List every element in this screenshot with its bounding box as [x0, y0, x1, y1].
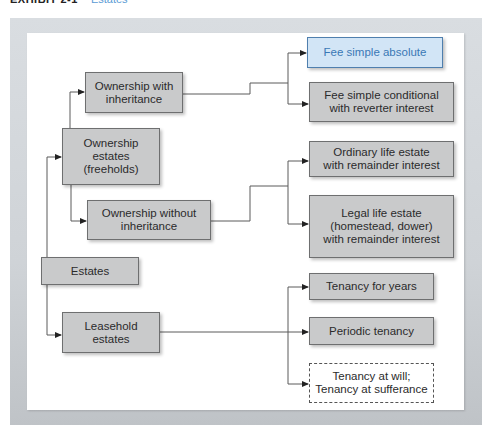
- node-ownership-estates: Ownership estates (freeholds): [62, 128, 160, 185]
- node-tenancy-for-years: Tenancy for years: [309, 273, 434, 300]
- node-label: Ownership estates (freeholds): [84, 137, 139, 176]
- node-label: Ordinary life estate with remainder inte…: [323, 146, 439, 172]
- node-ownership-without-inheritance: Ownership without inheritance: [87, 200, 211, 240]
- node-label: Ownership with inheritance: [95, 80, 174, 106]
- edge-ownership-to-with-inheritance: [70, 92, 84, 128]
- node-leasehold-estates: Leasehold estates: [62, 312, 160, 353]
- edge-with-inheritance-trunk: [183, 83, 288, 94]
- node-label: Fee simple conditional with reverter int…: [324, 89, 438, 115]
- edge-estates-to-ownership: [47, 157, 61, 257]
- node-label: Tenancy at will; Tenancy at sufferance: [315, 370, 427, 396]
- edge-estates-to-leasehold: [47, 285, 61, 335]
- node-label: Legal life estate (homestead, dower) wit…: [323, 207, 439, 246]
- node-label: Ownership without inheritance: [102, 207, 197, 233]
- node-fee-simple-absolute: Fee simple absolute: [307, 37, 443, 68]
- node-label: Estates: [71, 265, 109, 278]
- node-ordinary-life-estate: Ordinary life estate with remainder inte…: [309, 141, 454, 177]
- node-legal-life-estate: Legal life estate (homestead, dower) wit…: [309, 195, 454, 258]
- node-estates: Estates: [41, 257, 139, 285]
- node-tenancy-at-will: Tenancy at will; Tenancy at sufferance: [309, 363, 434, 403]
- node-label: Leasehold estates: [84, 320, 137, 346]
- node-periodic-tenancy: Periodic tenancy: [309, 317, 434, 345]
- edge-without-inheritance-trunk: [211, 186, 288, 221]
- node-label: Periodic tenancy: [329, 325, 414, 338]
- edge-ownership-to-without-inheritance: [71, 185, 86, 221]
- node-label: Fee simple absolute: [324, 46, 427, 59]
- node-label: Tenancy for years: [326, 280, 417, 293]
- node-ownership-with-inheritance: Ownership with inheritance: [85, 72, 183, 113]
- node-fee-simple-conditional: Fee simple conditional with reverter int…: [309, 82, 454, 122]
